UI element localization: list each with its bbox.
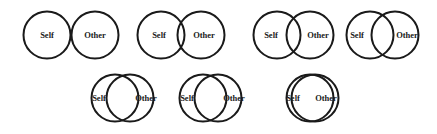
self-label: Self	[264, 30, 278, 40]
self-label: Self	[350, 30, 364, 40]
other-label: Other	[135, 93, 157, 103]
self-label: Self	[286, 93, 300, 103]
other-label: Other	[84, 30, 106, 40]
overlap-option-5: SelfOther	[92, 75, 158, 122]
other-label: Other	[307, 30, 329, 40]
overlap-option-2: SelfOther	[138, 12, 225, 59]
overlap-option-4: SelfOther	[347, 12, 419, 59]
self-label: Self	[92, 93, 106, 103]
overlap-option-3: SelfOther	[254, 12, 334, 59]
other-label: Other	[315, 93, 337, 103]
self-label: Self	[180, 93, 194, 103]
overlap-option-1: SelfOther	[24, 12, 119, 59]
other-label: Other	[223, 93, 245, 103]
other-label: Other	[193, 30, 215, 40]
self-other-overlap-diagram: SelfOtherSelfOtherSelfOtherSelfOtherSelf…	[0, 0, 437, 134]
self-label: Self	[152, 30, 166, 40]
other-label: Other	[396, 30, 418, 40]
self-label: Self	[40, 30, 54, 40]
overlap-option-6: SelfOther	[180, 75, 246, 122]
overlap-option-7: SelfOther	[286, 75, 338, 122]
